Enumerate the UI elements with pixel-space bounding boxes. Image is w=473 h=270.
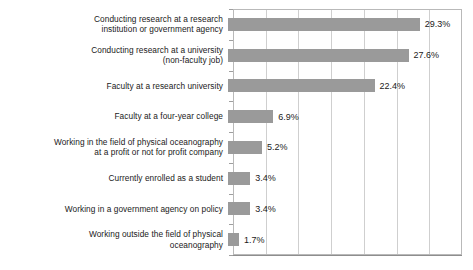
- chart-row: Faculty at a four-year college6.9%: [0, 101, 473, 132]
- bar: [228, 110, 273, 123]
- chart-row: Working in the field of physical oceanog…: [0, 132, 473, 163]
- bar-value-label: 3.4%: [255, 204, 276, 214]
- category-label: Faculty at a research university: [0, 81, 228, 92]
- bar: [228, 202, 250, 215]
- bar: [228, 172, 250, 185]
- bar-value-label: 3.4%: [255, 173, 276, 183]
- bar-zone: 3.4%: [228, 194, 473, 225]
- axis-tick: [229, 224, 233, 225]
- chart-row: Working in a government agency on policy…: [0, 194, 473, 225]
- horizontal-bar-chart: Conducting research at a researchinstitu…: [0, 0, 473, 270]
- bar-zone: 5.2%: [228, 132, 473, 163]
- chart-row: Conducting research at a researchinstitu…: [0, 9, 473, 40]
- axis-tick: [229, 40, 233, 41]
- category-label: Working outside the field of physicaloce…: [0, 229, 228, 250]
- axis-tick: [229, 101, 233, 102]
- category-label: Faculty at a four-year college: [0, 111, 228, 122]
- category-label: Working in a government agency on policy: [0, 204, 228, 215]
- bar: [228, 141, 262, 154]
- chart-row: Currently enrolled as a student3.4%: [0, 163, 473, 194]
- bar-zone: 1.7%: [228, 224, 473, 255]
- bar-zone: 22.4%: [228, 71, 473, 102]
- axis-tick: [229, 9, 233, 10]
- category-label: Working in the field of physical oceanog…: [0, 137, 228, 158]
- bar-zone: 3.4%: [228, 163, 473, 194]
- chart-rows: Conducting research at a researchinstitu…: [0, 0, 473, 270]
- bar: [228, 49, 409, 62]
- bar-value-label: 6.9%: [278, 112, 299, 122]
- bar-value-label: 22.4%: [380, 81, 406, 91]
- bar-zone: 6.9%: [228, 101, 473, 132]
- chart-row: Faculty at a research university22.4%: [0, 71, 473, 102]
- bar: [228, 18, 420, 31]
- bar-value-label: 5.2%: [267, 142, 288, 152]
- axis-tick: [229, 71, 233, 72]
- bar-zone: 29.3%: [228, 9, 473, 40]
- category-label: Conducting research at a university(non-…: [0, 45, 228, 66]
- axis-tick: [229, 132, 233, 133]
- bar: [228, 79, 375, 92]
- axis-tick: [229, 194, 233, 195]
- axis-tick: [229, 255, 233, 256]
- bar-value-label: 29.3%: [425, 19, 451, 29]
- bar-value-label: 27.6%: [414, 50, 440, 60]
- chart-row: Working outside the field of physicaloce…: [0, 224, 473, 255]
- category-label: Currently enrolled as a student: [0, 173, 228, 184]
- x-axis-baseline: [233, 255, 462, 256]
- bar-value-label: 1.7%: [244, 235, 265, 245]
- category-label: Conducting research at a researchinstitu…: [0, 14, 228, 35]
- axis-tick: [229, 163, 233, 164]
- bar-zone: 27.6%: [228, 40, 473, 71]
- bar: [228, 233, 239, 246]
- chart-row: Conducting research at a university(non-…: [0, 40, 473, 71]
